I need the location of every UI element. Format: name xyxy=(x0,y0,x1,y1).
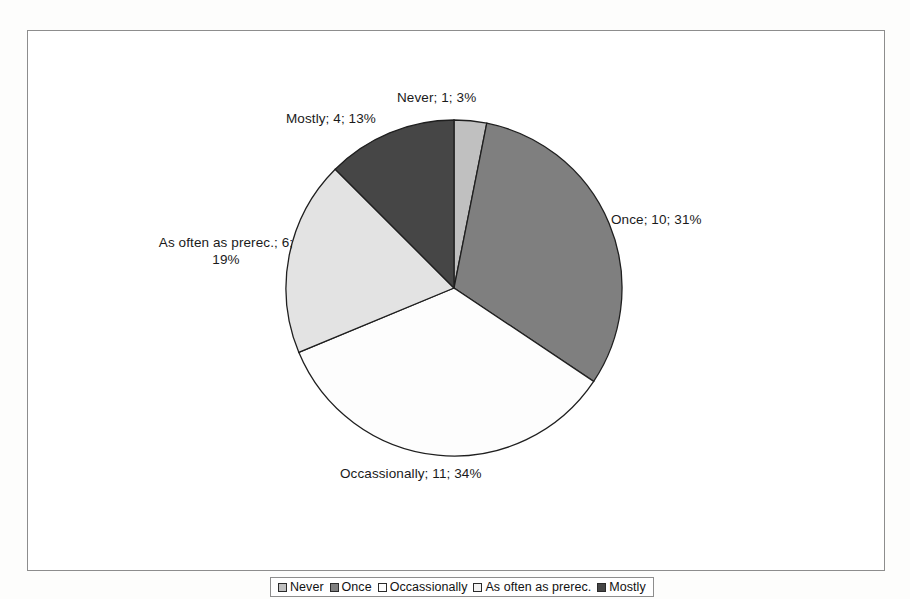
pie-label-once: Once; 10; 31% xyxy=(611,211,702,228)
pie-label-as-often-line2: 19% xyxy=(212,252,239,267)
legend-label-occassionally: Occassionally xyxy=(390,580,468,594)
legend-swatch-occassionally xyxy=(378,583,387,592)
pie-label-mostly: Mostly; 4; 13% xyxy=(286,110,376,127)
legend-label-never: Never xyxy=(290,580,324,594)
plot-area: Never; 1; 3% Once; 10; 31% Occassionally… xyxy=(28,31,886,572)
legend-item-once[interactable]: Once xyxy=(330,580,372,594)
pie-label-as-often-as-prerec: As often as prerec.; 6; 19% xyxy=(132,234,320,269)
chart-frame: Never; 1; 3% Once; 10; 31% Occassionally… xyxy=(27,30,885,571)
legend-item-never[interactable]: Never xyxy=(278,580,324,594)
legend-item-mostly[interactable]: Mostly xyxy=(597,580,645,594)
pie-label-occassionally: Occassionally; 11; 34% xyxy=(340,465,482,482)
pie-label-never: Never; 1; 3% xyxy=(397,89,476,106)
legend-label-once: Once xyxy=(342,580,372,594)
legend-label-as-often-as-prerec: As often as prerec. xyxy=(485,580,591,594)
pie-label-as-often-line1: As often as prerec.; 6; xyxy=(159,235,293,250)
legend-swatch-as-often-as-prerec xyxy=(473,583,482,592)
legend-label-mostly: Mostly xyxy=(609,580,645,594)
legend-swatch-once xyxy=(330,583,339,592)
pie-slices xyxy=(286,120,622,456)
legend-swatch-mostly xyxy=(597,583,606,592)
legend-item-occassionally[interactable]: Occassionally xyxy=(378,580,468,594)
page-background: Never; 1; 3% Once; 10; 31% Occassionally… xyxy=(0,0,910,599)
pie-chart-graphic xyxy=(28,31,886,572)
legend-item-as-often-as-prerec[interactable]: As often as prerec. xyxy=(473,580,591,594)
chart-legend: NeverOnceOccassionallyAs often as prerec… xyxy=(270,577,654,597)
legend-swatch-never xyxy=(278,583,287,592)
